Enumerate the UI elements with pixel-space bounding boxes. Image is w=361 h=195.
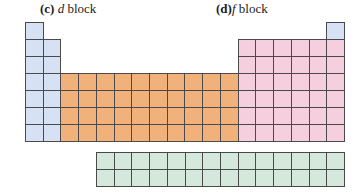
p-block-cell <box>273 56 292 74</box>
d-block-cell <box>96 124 115 142</box>
s-block-top-right-cell <box>326 22 345 40</box>
p-block-cell <box>255 107 274 125</box>
p-block-cell <box>255 124 274 142</box>
f-block-cell <box>255 152 274 170</box>
d-block-cell <box>114 90 133 108</box>
label-d-word: block <box>239 1 268 16</box>
label-c-tag: (c) <box>40 1 54 16</box>
p-block-cell <box>326 107 345 125</box>
p-block-cell <box>309 90 328 108</box>
p-block-cell <box>309 107 328 125</box>
d-block-cell <box>131 90 150 108</box>
d-block-cell <box>202 73 221 91</box>
f-block-cell <box>114 169 133 187</box>
p-block-cell <box>326 73 345 91</box>
s-block-cell <box>43 56 62 74</box>
label-c-letter: d <box>58 1 65 16</box>
d-block-cell <box>96 73 115 91</box>
f-block-cell <box>326 152 345 170</box>
p-block-cell <box>326 39 345 57</box>
p-block-cell <box>291 107 310 125</box>
d-block-cell <box>78 124 97 142</box>
d-block-cell <box>149 107 168 125</box>
f-block-cell <box>238 152 257 170</box>
p-block-cell <box>273 39 292 57</box>
f-block-cell <box>167 169 186 187</box>
label-d-f-block: (d)f block <box>216 1 268 17</box>
p-block-cell <box>255 39 274 57</box>
s-block-cell <box>25 90 44 108</box>
d-block-cell <box>78 90 97 108</box>
d-block-cell <box>149 90 168 108</box>
p-block-cell <box>238 107 257 125</box>
p-block-cell <box>326 124 345 142</box>
f-block-cell <box>220 152 239 170</box>
d-block-cell <box>220 90 239 108</box>
p-block-cell <box>238 73 257 91</box>
f-block-cell <box>273 152 292 170</box>
d-block-cell <box>131 124 150 142</box>
f-block-cell <box>291 152 310 170</box>
p-block-cell <box>238 124 257 142</box>
p-block-cell <box>273 90 292 108</box>
d-block-cell <box>220 107 239 125</box>
d-block-cell <box>78 73 97 91</box>
d-block-cell <box>114 124 133 142</box>
f-block-cell <box>220 169 239 187</box>
d-block-cell <box>96 107 115 125</box>
d-block-cell <box>149 73 168 91</box>
f-block-cell <box>202 152 221 170</box>
p-block-cell <box>273 107 292 125</box>
f-block-cell <box>238 169 257 187</box>
d-block-cell <box>60 73 79 91</box>
s-block-cell <box>43 39 62 57</box>
s-block-cell <box>25 107 44 125</box>
f-block-cell <box>114 152 133 170</box>
p-block-cell <box>238 56 257 74</box>
s-block-cell <box>25 124 44 142</box>
d-block-cell <box>149 124 168 142</box>
d-block-cell <box>167 73 186 91</box>
p-block-cell <box>326 90 345 108</box>
f-block-cell <box>202 169 221 187</box>
p-block-cell <box>273 124 292 142</box>
d-block-cell <box>78 107 97 125</box>
f-block-cell <box>149 169 168 187</box>
d-block-cell <box>114 107 133 125</box>
f-block-cell <box>185 152 204 170</box>
p-block-cell <box>326 56 345 74</box>
p-block-cell <box>255 56 274 74</box>
p-block-cell <box>238 90 257 108</box>
d-block-cell <box>202 90 221 108</box>
d-block-cell <box>60 90 79 108</box>
p-block-cell <box>291 39 310 57</box>
f-block-cell <box>255 169 274 187</box>
d-block-cell <box>60 107 79 125</box>
f-block-cell <box>273 169 292 187</box>
label-c-d-block: (c) d block <box>40 1 96 17</box>
d-block-cell <box>220 73 239 91</box>
f-block-cell <box>131 169 150 187</box>
d-block-cell <box>131 73 150 91</box>
d-block-cell <box>184 90 203 108</box>
f-block-cell <box>96 169 115 187</box>
f-block-cell <box>131 152 150 170</box>
f-block-cell <box>167 152 186 170</box>
p-block-cell <box>291 90 310 108</box>
f-block-cell <box>309 152 328 170</box>
f-block-cell <box>291 169 310 187</box>
s-block-cell <box>43 124 62 142</box>
d-block-cell <box>184 107 203 125</box>
label-c-word: block <box>67 1 96 16</box>
s-block-cell <box>43 90 62 108</box>
label-d-letter: f <box>232 1 236 16</box>
d-block-cell <box>184 73 203 91</box>
s-block-cell <box>25 56 44 74</box>
p-block-cell <box>309 124 328 142</box>
f-block-cell <box>149 152 168 170</box>
f-block-cell <box>309 169 328 187</box>
f-block-cell <box>326 169 345 187</box>
p-block-cell <box>291 124 310 142</box>
label-d-tag: (d) <box>216 1 232 16</box>
s-block-top-left-cell <box>25 22 44 40</box>
